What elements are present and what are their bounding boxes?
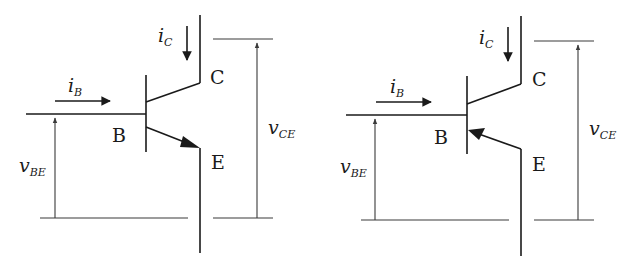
ib-label: iB [390, 75, 404, 100]
collector-diagonal [146, 83, 200, 102]
vce-label: vCE [268, 116, 295, 141]
pnp-transistor-diagram: iB iC B C E vBE vCE [340, 16, 616, 256]
emitter-arrow-icon [180, 136, 200, 148]
collector-label: C [532, 68, 547, 90]
ic-label: iC [158, 24, 173, 49]
ib-label: iB [68, 74, 82, 99]
emitter-label: E [532, 153, 546, 175]
collector-diagonal [467, 84, 521, 104]
collector-label: C [210, 66, 225, 88]
vce-label: vCE [589, 117, 616, 142]
npn-transistor-diagram: iB iC B C E vBE vCE [19, 15, 295, 253]
base-label: B [434, 126, 448, 148]
vbe-label: vBE [340, 155, 367, 180]
emitter-arrow-icon [468, 128, 485, 140]
transistor-diagrams: iB iC B C E vBE vCE iB [0, 0, 642, 271]
vbe-label: vBE [19, 154, 46, 179]
ic-label: iC [479, 26, 494, 51]
emitter-diagonal [476, 133, 521, 149]
base-label: B [112, 124, 126, 146]
emitter-label: E [211, 151, 225, 173]
